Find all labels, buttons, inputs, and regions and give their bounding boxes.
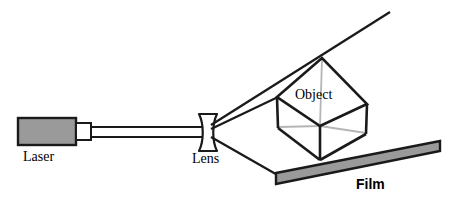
reference-beam-ray: [211, 12, 390, 125]
lens-body: [199, 114, 217, 151]
laser-body: [18, 118, 76, 145]
collimated-beam: [91, 127, 203, 137]
holography-diagram: Laser Lens Object Film: [0, 0, 456, 215]
object-cube: [277, 58, 367, 160]
label-lens: Lens: [192, 152, 219, 166]
laser-nozzle: [76, 123, 91, 140]
object-beam-ray: [211, 97, 278, 129]
label-object: Object: [295, 88, 332, 102]
diagram-canvas: [0, 0, 456, 215]
film-beam-ray: [211, 137, 281, 177]
label-laser: Laser: [23, 150, 54, 164]
laser-assembly: [18, 118, 91, 145]
label-film: Film: [356, 177, 385, 191]
diverging-lens: [199, 114, 217, 151]
